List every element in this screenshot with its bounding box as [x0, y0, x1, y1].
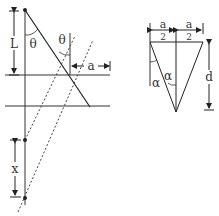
- right-figure: a 2 a 2 α α d: [150, 18, 215, 112]
- diagram-canvas: L θ θ a x a 2 a 2: [0, 0, 219, 216]
- point-lower: [23, 196, 27, 200]
- d-label: d: [205, 70, 213, 84]
- a2-left-numerator: a: [160, 18, 167, 31]
- theta-label-2: θ: [58, 33, 65, 47]
- alpha-label-outer: α: [152, 76, 160, 90]
- a2-right-numerator: a: [186, 18, 193, 31]
- a2-left-denominator: 2: [160, 32, 166, 42]
- alpha-arc-2: [168, 83, 176, 85]
- a2-right-denominator: 2: [186, 32, 192, 42]
- theta-arc-1: [25, 29, 38, 35]
- dashed-line-2b: [25, 36, 75, 140]
- alpha-arc-1: [150, 60, 157, 62]
- theta-arc-2: [59, 52, 70, 55]
- solid-diagonal-line: [25, 10, 90, 107]
- alpha-label-inner: α: [164, 69, 172, 83]
- L-label: L: [10, 37, 18, 51]
- a-label: a: [87, 59, 94, 73]
- x-label: x: [12, 162, 19, 176]
- left-figure: L θ θ a x: [5, 8, 110, 212]
- point-upper: [23, 138, 27, 142]
- theta-label-1: θ: [29, 37, 36, 51]
